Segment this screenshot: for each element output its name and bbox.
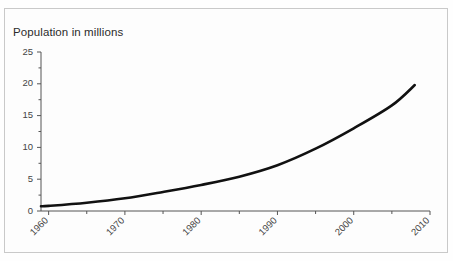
x-tick-label: 1980 <box>180 215 203 238</box>
population-line-series <box>41 85 415 206</box>
y-axis-tick-labels: 0510152025 <box>22 46 33 216</box>
x-tick-label: 2010 <box>409 215 432 238</box>
x-tick-label: 2000 <box>332 215 355 238</box>
chart-figure: Population in millions 0510152025 196019… <box>0 0 453 261</box>
y-axis-ticks <box>37 52 41 211</box>
y-tick-label: 5 <box>28 173 33 184</box>
y-tick-label: 20 <box>22 77 33 88</box>
x-tick-label: 1970 <box>104 215 127 238</box>
y-tick-label: 25 <box>22 46 33 57</box>
x-tick-label: 1960 <box>27 215 50 238</box>
x-axis-tick-labels: 196019701980199020002010 <box>27 215 431 238</box>
x-axis-ticks <box>49 211 430 215</box>
y-tick-label: 0 <box>28 205 33 216</box>
y-tick-label: 10 <box>22 141 33 152</box>
x-tick-label: 1990 <box>256 215 279 238</box>
plot-area: 0510152025 196019701980199020002010 <box>0 0 453 261</box>
y-tick-label: 15 <box>22 109 33 120</box>
